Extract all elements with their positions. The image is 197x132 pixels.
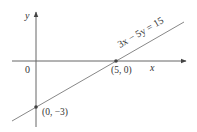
origin-label: 0 (25, 64, 30, 75)
point-x-intercept (114, 59, 118, 63)
y-axis-label: y (24, 10, 30, 21)
graph-canvas: y x 0 (5, 0) (0, −3) 3x − 5y = 15 (0, 0, 197, 132)
x-axis-label: x (149, 62, 155, 73)
equation-line (12, 22, 184, 121)
y-intercept-label: (0, −3) (42, 107, 68, 118)
point-y-intercept (34, 105, 38, 109)
x-intercept-label: (5, 0) (111, 65, 132, 76)
equation-label: 3x − 5y = 15 (116, 15, 166, 50)
